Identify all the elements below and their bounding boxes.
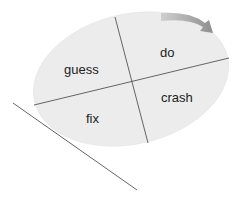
quadrant-label-crash: crash: [161, 90, 193, 105]
cycle-diagram: guess do crash fix: [0, 0, 240, 200]
quadrant-label-guess: guess: [64, 62, 99, 77]
quadrant-label-do: do: [160, 45, 174, 60]
quadrant-label-fix: fix: [86, 111, 100, 126]
